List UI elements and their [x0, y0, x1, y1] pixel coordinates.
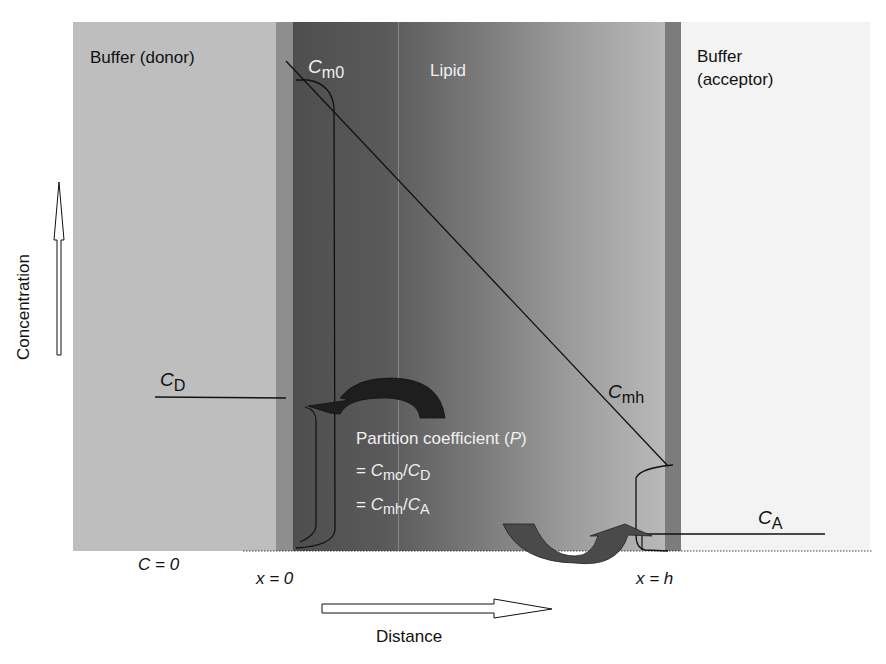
- cm0-label: Cm0: [308, 57, 344, 82]
- c-zero-label: C = 0: [138, 556, 179, 575]
- distance-arrow-icon: [322, 599, 552, 618]
- cd-level-line: [155, 397, 286, 398]
- donor-label: Buffer (donor): [90, 49, 195, 68]
- diagram-graphics: [0, 0, 886, 664]
- distance-axis-label: Distance: [376, 628, 442, 647]
- partition-arrow-in-icon: [308, 378, 445, 418]
- left-bracket: [300, 407, 316, 542]
- concentration-arrow-icon: [54, 182, 64, 355]
- cmh-label: Cmh: [608, 382, 644, 407]
- partition-arrow-out-icon: [503, 524, 652, 564]
- concentration-axis-label: Concentration: [14, 254, 34, 360]
- x-h-label: x = h: [636, 570, 673, 589]
- lipid-label: Lipid: [430, 62, 466, 81]
- x-zero-label: x = 0: [256, 570, 293, 589]
- cd-label: CD: [160, 370, 185, 395]
- partition-equation-donor: = Cmo/CD: [356, 462, 430, 484]
- acceptor-label-line1: Buffer: [697, 48, 742, 67]
- partition-coefficient-title: Partition coefficient (P): [356, 430, 527, 449]
- partition-equation-acceptor: = Cmh/CA: [356, 496, 430, 518]
- acceptor-label-line2: (acceptor): [697, 71, 774, 90]
- ca-label: CA: [758, 508, 783, 533]
